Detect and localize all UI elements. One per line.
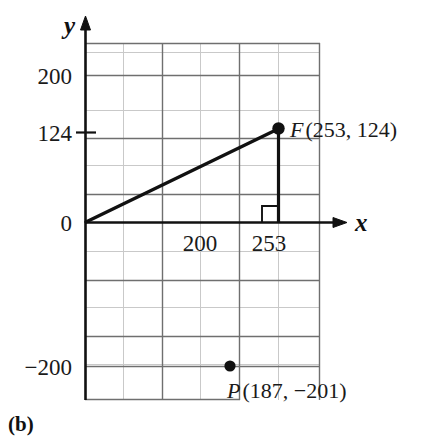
- point-F-label: F(253, 124): [289, 117, 397, 142]
- point-P-name: P: [226, 378, 240, 403]
- x-axis-label: x: [354, 209, 368, 236]
- y-axis-arrowhead: [81, 16, 91, 30]
- triangle-geometry: [86, 129, 279, 223]
- y-tick-label-0: 0: [61, 211, 73, 236]
- x-axis-arrowhead: [333, 218, 347, 228]
- y-tick-label-124: 124: [38, 121, 73, 146]
- point-F-name: F: [289, 117, 304, 142]
- point-P-marker[interactable]: [224, 360, 235, 371]
- y-tick-label-200: 200: [38, 64, 73, 89]
- figure-panel-b: y x 200 124 0 −200 200 253 F(253, 124) P…: [0, 0, 448, 444]
- hypotenuse-segment: [86, 129, 278, 222]
- y-axis-label: y: [61, 12, 76, 39]
- point-P-label: P(187, −201): [226, 378, 347, 403]
- y-tick-label-minus-200: −200: [25, 355, 72, 380]
- right-angle-marker-icon: [262, 206, 278, 222]
- coordinate-plot: y x 200 124 0 −200 200 253 F(253, 124) P…: [0, 0, 448, 444]
- point-P-coords: (187, −201): [242, 378, 346, 403]
- panel-label-b: (b): [8, 412, 34, 437]
- x-tick-label-253: 253: [252, 231, 287, 256]
- point-F-coords: (253, 124): [305, 117, 397, 142]
- x-tick-label-200: 200: [183, 231, 218, 256]
- point-F-marker[interactable]: [272, 122, 284, 134]
